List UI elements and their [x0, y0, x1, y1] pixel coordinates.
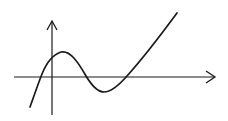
y-axis	[47, 21, 57, 115]
x-axis	[14, 71, 215, 83]
function-graph	[0, 0, 228, 121]
